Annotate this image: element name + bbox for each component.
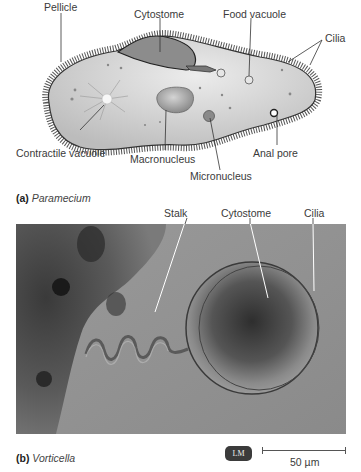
caption-a-name: Paramecium [32, 192, 91, 204]
label-cytostome-a: Cytostome [134, 8, 184, 20]
caption-b-name: Vorticella [32, 452, 75, 464]
macronucleus [157, 87, 194, 113]
caption-a-letter: (a) [16, 192, 29, 204]
label-cilia-b: Cilia [304, 207, 324, 219]
food-vacuole [217, 69, 225, 77]
vorticella-micrograph [16, 224, 346, 434]
scale-bar-label: 50 µm [290, 456, 319, 468]
micronucleus [204, 111, 215, 122]
label-contractile-vacuole: Contractile vacuole [16, 147, 105, 159]
label-macronucleus: Macronucleus [130, 153, 195, 165]
caption-a: (a) Paramecium [16, 192, 91, 204]
label-food-vacuole: Food vacuole [223, 8, 286, 20]
scale-bar [262, 447, 346, 453]
vorticella-cell [186, 262, 318, 394]
label-cilia-a: Cilia [325, 32, 345, 44]
label-micronucleus: Micronucleus [190, 170, 252, 182]
label-cytostome-b: Cytostome [221, 207, 271, 219]
caption-b: (b) Vorticella [16, 452, 75, 464]
paramecium-diagram [0, 0, 361, 220]
anal-pore [271, 110, 278, 117]
label-anal-pore: Anal pore [253, 147, 298, 159]
lm-badge: LM [225, 446, 252, 461]
dark-particle [52, 278, 70, 296]
caption-b-letter: (b) [16, 452, 29, 464]
label-stalk: Stalk [164, 207, 187, 219]
label-pellicle: Pellicle [44, 1, 77, 13]
